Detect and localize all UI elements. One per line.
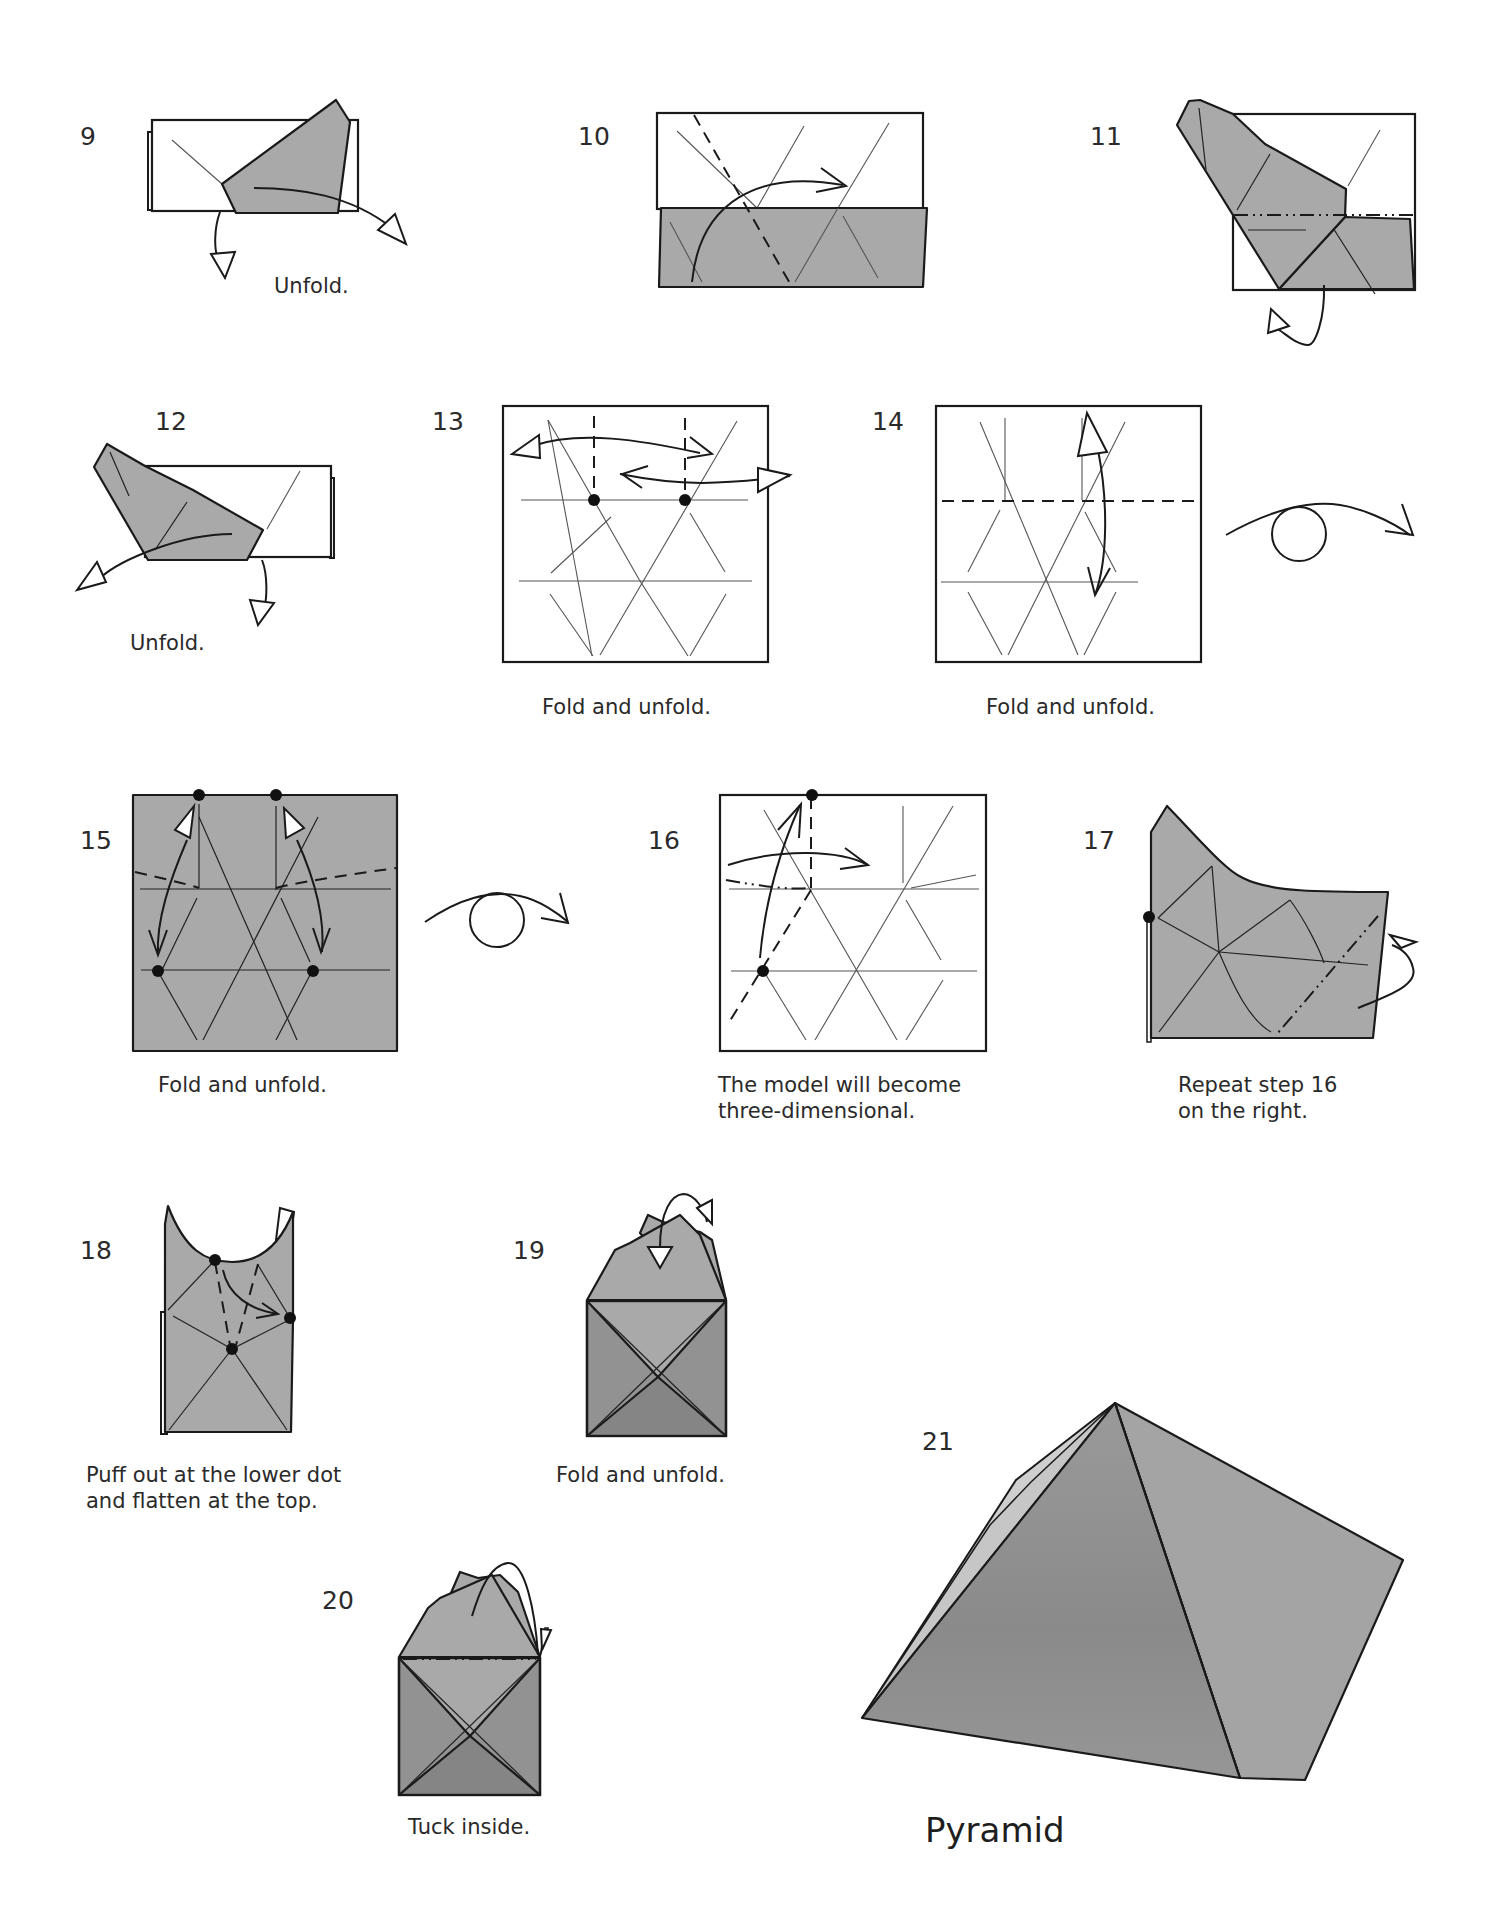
step-16-diagram (710, 780, 990, 1060)
step-number-19: 19 (513, 1236, 545, 1265)
arrowhead-open-icon (77, 562, 106, 590)
reference-dot (679, 494, 691, 506)
step-17-caption-line1: Repeat step 16 (1178, 1072, 1337, 1098)
arrowhead-open-icon (211, 252, 235, 278)
reference-dot (806, 789, 818, 801)
step-19-diagram (570, 1190, 740, 1450)
reference-dot (270, 789, 282, 801)
step-15-caption: Fold and unfold. (158, 1072, 327, 1098)
step-9-caption: Unfold. (274, 273, 349, 299)
reference-dot (152, 965, 164, 977)
step-11-diagram (1170, 90, 1430, 350)
step-12-diagram (60, 430, 360, 640)
step-17-caption-line2: on the right. (1178, 1098, 1308, 1124)
turn-over-icon (400, 880, 570, 980)
step-10-diagram (640, 100, 940, 300)
step-number-17: 17 (1083, 826, 1115, 855)
step-15-diagram (120, 780, 420, 1060)
step-16-caption-line1: The model will become (718, 1072, 961, 1098)
step-19-caption: Fold and unfold. (556, 1462, 725, 1488)
reference-dot (226, 1343, 238, 1355)
step-20-caption: Tuck inside. (408, 1814, 530, 1840)
step-number-20: 20 (322, 1586, 354, 1615)
step-number-13: 13 (432, 407, 464, 436)
step-12-caption: Unfold. (130, 630, 205, 656)
step-17-diagram (1140, 790, 1440, 1060)
turn-over-icon (1226, 504, 1413, 561)
reference-dot (209, 1254, 221, 1266)
step-number-9: 9 (80, 122, 96, 151)
reference-dot (757, 965, 769, 977)
model-title: Pyramid (925, 1810, 1065, 1850)
step-number-11: 11 (1090, 122, 1122, 151)
arrowhead-open-icon (758, 468, 790, 492)
step-number-15: 15 (80, 826, 112, 855)
step-13-diagram (490, 395, 790, 685)
arrowhead-open-icon (378, 214, 406, 244)
step-number-14: 14 (872, 407, 904, 436)
step-16-caption-line2: three-dimensional. (718, 1098, 915, 1124)
step-number-16: 16 (648, 826, 680, 855)
reference-dot (1143, 911, 1155, 923)
step-9-diagram (140, 90, 440, 290)
step-18-diagram (150, 1195, 310, 1445)
step-14-caption: Fold and unfold. (986, 694, 1155, 720)
reference-dot (193, 789, 205, 801)
step-20-diagram (390, 1550, 570, 1800)
reference-dot (307, 965, 319, 977)
step-number-18: 18 (80, 1236, 112, 1265)
arrowhead-open-icon (541, 1629, 551, 1650)
reference-dot (588, 494, 600, 506)
step-18-caption-line2: and flatten at the top. (86, 1488, 318, 1514)
arrowhead-open-icon (250, 600, 274, 625)
reference-dot (284, 1312, 296, 1324)
step-21-pyramid-diagram (850, 1385, 1430, 1785)
step-number-10: 10 (578, 122, 610, 151)
step-14-diagram (920, 395, 1440, 685)
step-18-caption-line1: Puff out at the lower dot (86, 1462, 341, 1488)
step-13-caption: Fold and unfold. (542, 694, 711, 720)
arrowhead-open-icon (1268, 309, 1289, 333)
